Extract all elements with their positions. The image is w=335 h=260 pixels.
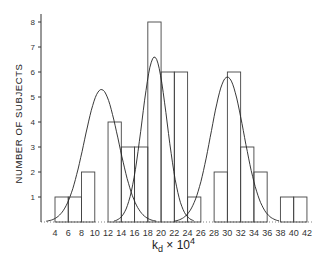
histogram-bar <box>135 147 148 222</box>
histogram-bar <box>241 147 254 222</box>
svg-text:5: 5 <box>31 93 36 102</box>
fitted-curve <box>114 57 194 221</box>
histogram-bar <box>254 172 267 222</box>
histogram-bar <box>68 197 81 222</box>
x-axis-label: kd × 104 <box>0 236 335 254</box>
svg-text:2: 2 <box>31 168 36 177</box>
histogram-bar <box>214 172 227 222</box>
y-axis-label: NUMBER OF SUBJECTS <box>13 54 24 194</box>
histogram-bar <box>108 122 121 222</box>
fitted-curve <box>174 77 279 221</box>
tick-labels: 1234567846810121416182022242628303234363… <box>31 18 312 238</box>
histogram-bar <box>148 22 161 222</box>
axes <box>38 14 312 222</box>
svg-text:3: 3 <box>31 143 36 152</box>
histogram-bar <box>294 197 307 222</box>
svg-text:6: 6 <box>31 68 36 77</box>
histogram-bar <box>82 172 95 222</box>
histogram-chart: 1234567846810121416182022242628303234363… <box>0 0 335 260</box>
histogram-bar <box>55 197 68 222</box>
histogram-bar <box>280 197 293 222</box>
fitted-curve <box>46 90 156 222</box>
svg-text:1: 1 <box>31 193 36 202</box>
histogram-bar <box>174 72 187 222</box>
histogram-bars <box>55 22 307 222</box>
histogram-bar <box>227 72 240 222</box>
svg-text:8: 8 <box>31 18 36 27</box>
svg-text:7: 7 <box>31 43 36 52</box>
svg-text:4: 4 <box>31 118 36 127</box>
